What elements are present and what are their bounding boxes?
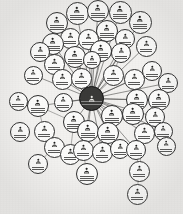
graph-node-n33[interactable] (77, 120, 99, 142)
graph-node-n23[interactable] (9, 92, 28, 111)
contact-person-icon (30, 69, 36, 75)
node-name-glyphs (87, 62, 98, 66)
contact-person-icon (163, 140, 169, 146)
node-name-glyphs (160, 148, 171, 152)
graph-node-n03[interactable] (109, 1, 132, 24)
node-name-glyphs (107, 77, 120, 81)
contact-person-icon (53, 16, 60, 23)
contact-person-icon (165, 77, 172, 84)
graph-hub-node[interactable] (79, 86, 104, 111)
node-name-glyphs (133, 24, 147, 29)
graph-node-n32[interactable] (10, 122, 30, 142)
contact-person-icon (116, 5, 124, 13)
contact-person-icon (51, 58, 58, 65)
node-name-glyphs (75, 80, 88, 84)
node-name-glyphs (96, 154, 109, 158)
contact-person-icon (131, 73, 138, 80)
graph-node-n47[interactable] (127, 184, 148, 205)
graph-node-n40[interactable] (92, 142, 113, 163)
graph-node-n24[interactable] (27, 95, 49, 117)
contact-person-icon (71, 50, 78, 57)
node-name-glyphs (162, 85, 174, 89)
graph-node-n48[interactable] (24, 66, 43, 85)
contact-person-icon (34, 99, 41, 106)
contact-person-icon (108, 109, 115, 116)
graph-node-n44[interactable] (28, 154, 48, 174)
contact-person-icon (122, 33, 129, 40)
graph-node-n17[interactable] (52, 69, 73, 90)
contact-person-icon (67, 32, 74, 39)
node-name-glyphs (130, 152, 142, 156)
contact-person-icon (60, 96, 66, 102)
graph-node-n02[interactable] (87, 0, 109, 22)
contact-person-icon (73, 6, 81, 14)
contact-person-icon (117, 143, 124, 150)
node-name-glyphs (77, 152, 90, 156)
node-name-glyphs (114, 151, 126, 155)
node-name-glyphs (57, 104, 68, 108)
contact-person-icon (59, 73, 66, 80)
contact-person-icon (37, 46, 44, 53)
contact-person-icon (149, 65, 156, 72)
graph-node-n19[interactable] (103, 65, 124, 86)
graph-node-n16[interactable] (136, 36, 157, 57)
contact-person-icon (99, 146, 106, 153)
node-name-glyphs (131, 196, 144, 200)
contact-person-icon (97, 44, 104, 51)
contact-person-icon (136, 15, 144, 23)
contact-person-icon (103, 24, 110, 31)
contact-person-icon (17, 126, 24, 133)
node-name-glyphs (146, 73, 158, 77)
graph-node-n39[interactable] (73, 140, 94, 161)
node-name-glyphs (81, 133, 94, 137)
graph-node-n49[interactable] (83, 51, 101, 69)
contact-person-icon (49, 37, 56, 44)
graph-node-n05[interactable] (129, 11, 152, 34)
contact-person-icon (134, 188, 141, 195)
contact-person-icon (35, 158, 42, 165)
node-name-glyphs (38, 133, 51, 137)
contact-person-icon (41, 125, 48, 132)
contact-person-icon (133, 144, 140, 151)
graph-node-n50[interactable] (54, 93, 73, 112)
node-name-glyphs (115, 55, 127, 59)
node-name-glyphs (12, 103, 23, 107)
contact-person-icon (129, 107, 136, 114)
contact-person-icon (78, 72, 85, 79)
contact-person-icon (89, 55, 95, 61)
contact-person-icon (104, 126, 111, 133)
network-graph-canvas (0, 0, 183, 214)
contact-person-icon (80, 144, 87, 151)
contact-person-icon (70, 115, 77, 122)
contact-person-icon (83, 167, 90, 174)
node-name-glyphs (50, 25, 63, 29)
contact-person-icon (155, 93, 162, 100)
contact-person-icon (94, 4, 101, 11)
hub-contact-person-icon (88, 95, 96, 103)
contact-person-icon (51, 141, 58, 148)
graph-node-n45[interactable] (76, 163, 98, 185)
contact-person-icon (143, 40, 150, 47)
graph-node-layer (0, 0, 183, 214)
graph-node-n46[interactable] (129, 161, 150, 182)
graph-node-n43[interactable] (157, 137, 176, 156)
node-name-glyphs (101, 135, 114, 139)
contact-person-icon (136, 165, 143, 172)
node-name-glyphs (152, 102, 165, 106)
contact-person-icon (160, 125, 166, 131)
graph-node-n29[interactable] (122, 103, 144, 125)
node-name-glyphs (80, 176, 93, 180)
graph-node-n01[interactable] (66, 2, 89, 25)
node-name-glyphs (70, 15, 84, 20)
node-name-glyphs (34, 54, 46, 58)
contact-person-icon (141, 127, 148, 134)
contact-person-icon (85, 33, 92, 40)
graph-node-n14[interactable] (111, 43, 131, 63)
node-name-glyphs (91, 13, 104, 17)
contact-person-icon (15, 95, 21, 101)
node-name-glyphs (68, 59, 81, 63)
graph-node-n42[interactable] (126, 140, 146, 160)
node-name-glyphs (27, 77, 38, 81)
node-name-glyphs (126, 116, 139, 120)
node-name-glyphs (133, 173, 146, 177)
